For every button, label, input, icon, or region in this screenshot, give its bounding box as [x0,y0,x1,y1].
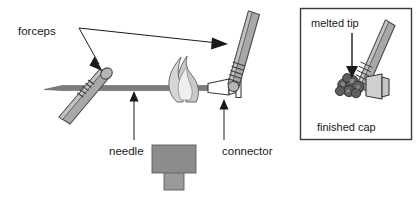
leader-forceps-left [79,28,103,71]
leader-needle [130,91,139,140]
flame [169,56,199,102]
procedure-diagram: forceps needle connector [0,0,419,218]
inset-connector [366,74,389,99]
label-forceps: forceps [18,25,56,37]
label-connector: connector [222,145,273,157]
inset-panel: melted tip finished cap [301,9,412,140]
leader-connector [220,99,229,140]
label-needle: needle [109,145,144,157]
diagram-canvas: forceps needle connector [0,0,419,218]
burner [152,145,196,190]
forceps-right [227,11,260,93]
label-finished-cap: finished cap [317,121,376,133]
forceps-left [59,66,115,124]
label-melted-tip: melted tip [311,17,359,29]
leader-forceps-right [79,28,228,50]
